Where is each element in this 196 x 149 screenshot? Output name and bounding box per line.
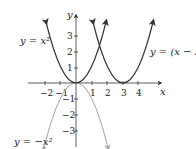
label-neg-x-squared: y = −x² <box>13 136 52 147</box>
y-axis-label: y <box>66 9 73 20</box>
x-tick-label: 3 <box>121 88 127 98</box>
label-x-minus-3-squared: y = (x − 3)² <box>149 46 196 57</box>
y-tick-label: −3 <box>62 126 76 136</box>
x-tick-label: −2 <box>40 88 53 98</box>
y-tick-label: −1 <box>62 94 75 104</box>
curve-x-minus-3-squared <box>93 22 153 83</box>
parabola-graph: −2 −1 1 2 3 4 3 2 1 −1 −2 −3 x y y = x² … <box>0 0 196 149</box>
label-x-squared: y = x² <box>19 35 50 46</box>
y-tick-label: 2 <box>67 47 73 57</box>
x-tick-label: 2 <box>105 88 111 98</box>
y-tick-label: −2 <box>62 110 75 120</box>
x-tick-label: 4 <box>136 88 142 98</box>
y-tick-label: 1 <box>67 63 73 73</box>
x-axis-label: x <box>160 86 166 97</box>
y-tick-label: 3 <box>67 31 73 41</box>
